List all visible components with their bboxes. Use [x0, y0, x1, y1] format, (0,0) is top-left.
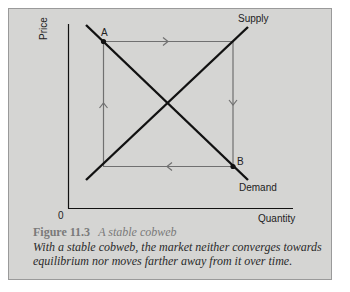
supply-label: Supply [238, 13, 269, 24]
point-b-marker [230, 164, 235, 169]
figure-title: A stable cobweb [98, 225, 176, 239]
x-axis-label: Quantity [258, 213, 295, 224]
origin-label: 0 [58, 210, 64, 221]
point-b-label: B [237, 156, 244, 167]
demand-label: Demand [239, 182, 277, 193]
figure-caption: Figure 11.3A stable cobweb With a stable… [33, 225, 328, 269]
y-axis-label: Price [38, 17, 49, 40]
point-a-marker [101, 39, 106, 44]
figure-description: With a stable cobweb, the market neither… [33, 240, 328, 269]
point-a-label: A [101, 27, 108, 38]
figure-number: Figure 11.3 [33, 225, 90, 239]
